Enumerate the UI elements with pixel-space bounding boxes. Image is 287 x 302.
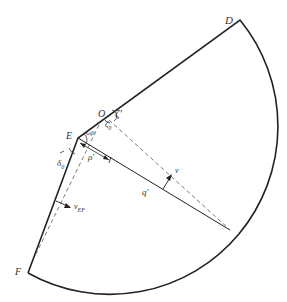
- sector-diagram: D O ζ' ζ0 E ωβ δ0 ρ' q' v vEF F: [0, 0, 287, 302]
- label-f: F: [15, 267, 21, 277]
- label-v-ef: vEF: [74, 203, 85, 213]
- label-e: E: [66, 131, 72, 141]
- label-rho-prime: ρ': [88, 153, 94, 162]
- label-q-prime: q': [142, 188, 148, 197]
- label-delta: δ0: [57, 159, 64, 170]
- dashed-parallel-ef: [33, 125, 99, 260]
- label-zeta-prime: ζ': [115, 108, 122, 119]
- label-zeta-0: ζ0: [105, 121, 111, 131]
- dashed-o-to-arc: [109, 120, 228, 228]
- outline: [28, 20, 278, 294]
- label-o: O: [98, 109, 105, 119]
- label-d: D: [225, 15, 233, 26]
- diagram-lines: [0, 0, 287, 302]
- line-e-to-arc: [78, 138, 230, 230]
- label-v: v: [175, 167, 179, 175]
- label-omega: ωβ: [86, 130, 94, 137]
